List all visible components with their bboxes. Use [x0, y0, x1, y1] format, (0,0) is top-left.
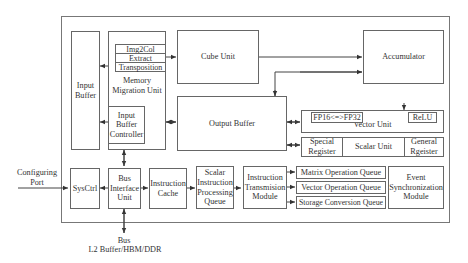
instruction-cache-label: Instruction Cache: [150, 179, 186, 198]
transposition-sub-block: Transposition: [115, 62, 166, 72]
special-register-label: Special Register: [302, 137, 342, 156]
sysctrl-block: SysCtrl: [70, 168, 100, 209]
scalar-unit-label: Scalar Unit: [355, 142, 392, 152]
cube-unit-block: Cube Unit: [177, 30, 259, 84]
output-buffer-label: Output Buffer: [209, 119, 255, 129]
special-register-block: Special Register: [301, 137, 343, 157]
input-buffer-controller-label: Input Buffer Controller: [109, 111, 144, 140]
instruction-transmission-module-label: Instruction Transmision Module: [244, 173, 286, 202]
event-synchronization-module-label: Event Synchronization Module: [389, 173, 443, 202]
bus-interface-unit-block: Bus Interface Unit: [108, 168, 141, 209]
storage-conversion-queue-block: Storage Conversion Queue: [296, 196, 386, 209]
matrix-operation-queue-label: Matrix Operation Queue: [301, 168, 381, 178]
instruction-transmission-module-block: Instruction Transmision Module: [243, 166, 287, 209]
input-buffer-controller-block: Input Buffer Controller: [108, 106, 145, 144]
accumulator-label: Accumulator: [382, 52, 425, 62]
general-register-block: General Rgeister: [404, 137, 444, 157]
bus-interface-unit-label: Bus Interface Unit: [109, 174, 140, 203]
event-synchronization-module-block: Event Synchronization Module: [388, 166, 444, 209]
memory-migration-unit-label: Memory Migration Unit: [109, 76, 165, 95]
configuring-port-label: Configuring Port: [14, 168, 60, 187]
vector-operation-queue-block: Vector Operation Queue: [296, 181, 386, 194]
storage-conversion-queue-label: Storage Conversion Queue: [299, 198, 383, 208]
vector-operation-queue-label: Vector Operation Queue: [301, 183, 381, 193]
scalar-instruction-processing-queue-block: Scalar Instruction Processing Queue: [196, 166, 234, 209]
general-register-label: General Rgeister: [405, 137, 443, 156]
relu-sub-block: ReLU: [408, 112, 437, 123]
input-buffer-block: Input Buffer: [71, 31, 100, 150]
cube-unit-label: Cube Unit: [201, 52, 235, 62]
matrix-operation-queue-block: Matrix Operation Queue: [296, 166, 386, 179]
output-buffer-block: Output Buffer: [177, 96, 287, 151]
scalar-unit-block: Scalar Unit: [342, 137, 405, 157]
bus-memory-label: L2 Buffer/HBM/DDR: [84, 245, 166, 255]
instruction-cache-block: Instruction Cache: [149, 168, 187, 209]
accumulator-block: Accumulator: [363, 30, 444, 84]
fp16-fp32-sub-block: FP16<=>FP32: [311, 112, 363, 123]
scalar-instruction-processing-queue-label: Scalar Instruction Processing Queue: [197, 168, 233, 206]
input-buffer-label: Input Buffer: [73, 81, 99, 100]
sysctrl-label: SysCtrl: [73, 184, 98, 194]
